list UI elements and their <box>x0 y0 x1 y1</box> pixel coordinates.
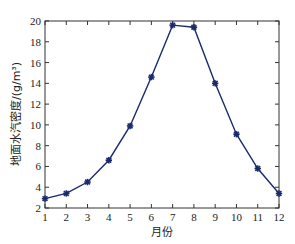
asterisk-marker-icon <box>84 179 90 185</box>
line-chart: 2468101214161820 123456789101112 月份 地面水汽… <box>0 0 295 244</box>
y-tick-label: 2 <box>36 202 42 214</box>
y-tick-label: 10 <box>30 119 42 131</box>
y-tick-label: 14 <box>30 77 42 89</box>
asterisk-marker-icon <box>169 22 175 28</box>
x-tick-label: 10 <box>231 211 243 223</box>
x-axis-label: 月份 <box>151 226 173 239</box>
y-tick-label: 12 <box>30 98 41 110</box>
x-tick-label: 6 <box>149 211 155 223</box>
plot-area <box>45 21 279 208</box>
asterisk-marker-icon <box>127 123 133 129</box>
y-axis-label: 地面水汽密度/(g/m³) <box>9 62 23 166</box>
y-tick-label: 18 <box>30 36 42 48</box>
asterisk-marker-icon <box>148 74 154 80</box>
asterisk-marker-icon <box>255 165 261 171</box>
x-tick-label: 3 <box>85 211 91 223</box>
x-tick-label: 9 <box>212 211 218 223</box>
x-tick-label: 4 <box>106 211 112 223</box>
y-tick-label: 16 <box>30 57 42 69</box>
x-tick-label: 5 <box>127 211 133 223</box>
asterisk-marker-icon <box>191 24 197 30</box>
y-tick-label: 6 <box>36 160 42 172</box>
x-tick-label: 7 <box>170 211 176 223</box>
y-tick-label: 8 <box>36 140 42 152</box>
x-tick-label: 12 <box>274 211 285 223</box>
x-tick-label: 2 <box>64 211 70 223</box>
x-tick-label: 8 <box>191 211 197 223</box>
asterisk-marker-icon <box>233 131 239 137</box>
x-tick-label: 1 <box>42 211 48 223</box>
asterisk-marker-icon <box>106 157 112 163</box>
asterisk-marker-icon <box>63 190 69 196</box>
asterisk-marker-icon <box>42 195 48 201</box>
asterisk-marker-icon <box>276 190 282 196</box>
asterisk-marker-icon <box>212 80 218 86</box>
y-tick-label: 4 <box>36 181 42 193</box>
x-tick-label: 11 <box>252 211 263 223</box>
y-tick-label: 20 <box>30 15 42 27</box>
